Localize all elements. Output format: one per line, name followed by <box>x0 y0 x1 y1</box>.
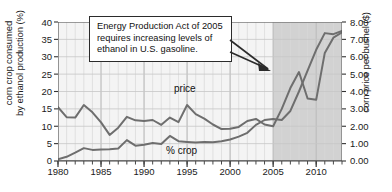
x-tick-1980: 1980 <box>38 166 78 177</box>
annotation-callout-box: Energy Production Act of 2005 requires i… <box>89 16 232 62</box>
x-tick-2010: 2010 <box>296 166 336 177</box>
x-tick-1990: 1990 <box>124 166 164 177</box>
ethanol-corn-chart: corn crop consumed by ethanol production… <box>0 0 392 192</box>
callout-line-2: requires increasing levels of <box>97 33 225 45</box>
series-label-price: price <box>174 83 196 94</box>
series-label-percent-crop: % crop <box>166 145 197 156</box>
x-tick-1995: 1995 <box>167 166 207 177</box>
x-axis-ticks: 1980198519901995200020052010 <box>0 166 392 182</box>
x-tick-2000: 2000 <box>210 166 250 177</box>
x-tick-2005: 2005 <box>253 166 293 177</box>
callout-line-3: ethanol in U.S. gasoline. <box>97 44 225 56</box>
x-tick-1985: 1985 <box>81 166 121 177</box>
callout-line-1: Energy Production Act of 2005 <box>97 21 225 33</box>
